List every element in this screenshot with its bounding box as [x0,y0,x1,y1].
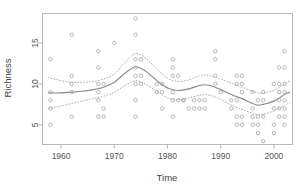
data-point [160,107,163,110]
x-axis-title: Time [157,172,178,183]
data-point [240,74,243,77]
data-point [230,99,233,102]
data-point [262,99,265,102]
data-point [171,115,174,118]
data-point [240,123,243,126]
data-point [171,74,174,77]
data-point [272,131,275,134]
data-point [235,82,238,85]
data-point [134,33,137,36]
data-point [283,115,286,118]
ci-upper-path [48,54,290,94]
data-point [240,115,243,118]
data-point [192,107,195,110]
data-point [70,74,73,77]
data-point [219,90,222,93]
data-point [203,107,206,110]
data-point [155,82,158,85]
y-tick-label: 15 [30,38,40,48]
x-tick-label: 2000 [264,151,283,161]
data-point [251,107,254,110]
y-tick-label: 10 [30,79,40,89]
data-point [139,82,142,85]
data-point [171,90,174,93]
data-point [198,107,201,110]
data-point [134,74,137,77]
data-point [214,74,217,77]
data-point [203,99,206,102]
data-point [134,99,137,102]
data-point [97,82,100,85]
y-axis-ticks: 51015 [30,38,43,127]
data-point [198,99,201,102]
data-point [176,74,179,77]
data-point [187,107,190,110]
chart-container: 19601970198019902000 51015 Time Richness [0,0,307,187]
data-point [171,99,174,102]
data-point [113,41,116,44]
data-point [251,115,254,118]
data-point [49,58,52,61]
data-point [134,115,137,118]
data-point [283,66,286,69]
data-point [214,49,217,52]
data-point [283,123,286,126]
data-point [102,82,105,85]
data-point [278,90,281,93]
data-point [278,82,281,85]
data-point [262,115,265,118]
data-point [240,90,243,93]
data-point [272,107,275,110]
y-axis-title: Richness [2,58,13,97]
data-point [97,49,100,52]
data-point [49,107,52,110]
data-point [272,123,275,126]
data-point [49,123,52,126]
data-point [171,66,174,69]
data-point [283,107,286,110]
data-point [70,115,73,118]
data-point [102,107,105,110]
data-point [283,90,286,93]
data-point [160,90,163,93]
data-point [256,99,259,102]
data-point [70,33,73,36]
data-point [134,58,137,61]
data-point [283,49,286,52]
data-point [283,99,286,102]
data-point [176,99,179,102]
upper-confidence-band [48,54,290,94]
data-point [278,66,281,69]
data-point [139,74,142,77]
data-point [235,99,238,102]
data-point [171,58,174,61]
data-point [251,123,254,126]
x-tick-label: 1990 [211,151,230,161]
data-point [262,140,265,143]
data-point [278,115,281,118]
data-point [235,74,238,77]
data-point [230,107,233,110]
richness-vs-time-scatter-plot: 19601970198019902000 51015 Time Richness [0,0,307,187]
data-point [283,82,286,85]
x-axis-ticks: 19601970198019902000 [52,145,284,161]
data-point [97,90,100,93]
data-point [97,66,100,69]
data-point [97,99,100,102]
data-point [256,131,259,134]
x-tick-label: 1980 [158,151,177,161]
data-point [192,99,195,102]
data-point [278,99,281,102]
data-point [256,115,259,118]
y-tick-label: 5 [30,122,40,127]
fitted-trend-line [48,67,290,106]
data-point [214,58,217,61]
data-points [49,17,286,143]
data-point [134,17,137,20]
data-point [262,90,265,93]
data-point [256,123,259,126]
x-tick-label: 1960 [52,151,71,161]
data-point [240,82,243,85]
data-point [102,115,105,118]
fit-path [48,67,290,106]
